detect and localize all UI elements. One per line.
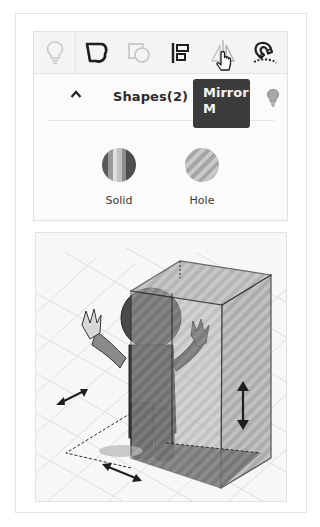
solid-swatch-icon [102, 148, 136, 182]
tooltip-title: Mirror [203, 85, 249, 100]
solid-label: Solid [94, 194, 144, 207]
lightbulb-icon [45, 40, 65, 66]
width-arrow-handle[interactable] [56, 389, 88, 405]
inspector-toolbar [34, 32, 287, 74]
mirror-tooltip: Mirror M [193, 79, 250, 128]
notes-button[interactable] [34, 32, 76, 74]
hole-shape-icon [126, 41, 152, 65]
hole-label: Hole [177, 194, 227, 207]
workplane-scene [36, 233, 287, 502]
align-button[interactable] [160, 32, 202, 74]
mirror-button[interactable] [202, 32, 244, 74]
hole-shape-button[interactable] [118, 32, 160, 74]
chevron-up-icon[interactable] [70, 90, 82, 98]
hole-swatch-icon [185, 148, 219, 182]
hole-box[interactable] [66, 261, 271, 488]
3d-viewport[interactable] [35, 232, 287, 502]
magnet-icon [251, 40, 279, 66]
solid-option[interactable]: Solid [94, 148, 144, 207]
cruise-button[interactable] [244, 32, 286, 74]
shapes-section-title: Shapes(2) [113, 89, 188, 104]
hole-option[interactable]: Hole [177, 148, 227, 207]
align-icon [170, 41, 192, 65]
solid-shape-button[interactable] [76, 32, 118, 74]
tooltip-shortcut: M [203, 101, 250, 117]
solid-shape-icon [84, 41, 110, 65]
lightbulb-icon[interactable] [266, 88, 280, 108]
depth-arrow-handle[interactable] [102, 463, 142, 482]
mirror-icon [208, 39, 238, 73]
